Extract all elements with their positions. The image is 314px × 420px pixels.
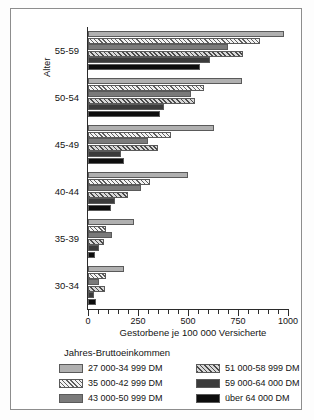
- y-axis-label-container: Alter: [41, 31, 55, 91]
- legend-item-label: über 64 000 DM: [225, 393, 290, 403]
- bar-40-44-series-1: [88, 179, 150, 185]
- chart-frame: Alter 02505007501000 55-5950-5445-4940-4…: [10, 8, 302, 410]
- bar-50-54-series-5: [88, 111, 160, 117]
- bar-35-39-series-2: [88, 232, 112, 238]
- x-tick-label-750: 750: [218, 316, 258, 326]
- bar-35-39-series-0: [88, 219, 134, 225]
- x-tick-300: [148, 310, 149, 314]
- bar-55-59-series-2: [88, 44, 228, 50]
- x-tick-550: [198, 310, 199, 314]
- bar-55-59-series-4: [88, 57, 210, 63]
- x-tick-label-1000: 1000: [268, 316, 308, 326]
- legend-item-label: 27 000-34 999 DM: [88, 363, 163, 373]
- bar-45-49-series-3: [88, 145, 158, 151]
- bar-50-54-series-0: [88, 78, 242, 84]
- bar-40-44-series-0: [88, 172, 188, 178]
- bar-55-59-series-5: [88, 64, 200, 70]
- y-tick-label-55-59: 55-59: [33, 45, 79, 56]
- legend-title: Jahres-Bruttoeinkommen: [64, 347, 303, 358]
- legend-item-label: 59 000-64 000 DM: [225, 378, 300, 388]
- bar-40-44-series-3: [88, 192, 128, 198]
- legend-swatch-icon: [196, 394, 220, 403]
- y-tick-label-35-39: 35-39: [33, 233, 79, 244]
- bar-45-49-series-0: [88, 125, 214, 131]
- x-tick-700: [228, 310, 229, 314]
- bar-30-34-series-0: [88, 266, 124, 272]
- x-tick-600: [208, 310, 209, 314]
- bar-40-44-series-5: [88, 205, 111, 211]
- bar-50-54-series-1: [88, 85, 204, 91]
- y-tick-label-45-49: 45-49: [33, 139, 79, 150]
- bar-30-34-series-2: [88, 279, 99, 285]
- legend-item-label: 43 000-50 999 DM: [88, 393, 163, 403]
- legend-column-left: 27 000-34 999 DM35 000-42 999 DM43 000-5…: [59, 361, 163, 406]
- plot-area: [88, 27, 288, 309]
- bar-45-49-series-1: [88, 132, 171, 138]
- x-tick-label-500: 500: [168, 316, 208, 326]
- x-tick-100: [108, 310, 109, 314]
- x-tick-450: [178, 310, 179, 314]
- bar-30-34-series-4: [88, 292, 94, 298]
- legend-swatch-icon: [59, 379, 83, 388]
- legend-columns: 27 000-34 999 DM35 000-42 999 DM43 000-5…: [59, 361, 303, 407]
- bar-50-54-series-2: [88, 91, 191, 97]
- bar-45-49-series-4: [88, 151, 121, 157]
- bar-55-59-series-3: [88, 51, 243, 57]
- y-tick-label-50-54: 50-54: [33, 92, 79, 103]
- x-tick-650: [218, 310, 219, 314]
- legend-item: 35 000-42 999 DM: [59, 376, 163, 390]
- x-tick-label-250: 250: [118, 316, 158, 326]
- legend-item: 43 000-50 999 DM: [59, 391, 163, 405]
- x-tick-850: [258, 310, 259, 314]
- legend-swatch-icon: [196, 364, 220, 373]
- x-tick-400: [168, 310, 169, 314]
- x-tick-label-0: 0: [68, 316, 108, 326]
- legend-item: über 64 000 DM: [196, 391, 300, 405]
- bar-35-39-series-4: [88, 245, 99, 251]
- legend-swatch-icon: [196, 379, 220, 388]
- bar-30-34-series-5: [88, 299, 96, 305]
- legend-item: 27 000-34 999 DM: [59, 361, 163, 375]
- x-tick-900: [268, 310, 269, 314]
- legend-swatch-icon: [59, 364, 83, 373]
- y-tick-label-40-44: 40-44: [33, 186, 79, 197]
- legend-item: 59 000-64 000 DM: [196, 376, 300, 390]
- bar-40-44-series-2: [88, 185, 141, 191]
- legend: Jahres-Bruttoeinkommen 27 000-34 999 DM3…: [59, 347, 303, 407]
- x-tick-200: [128, 310, 129, 314]
- bar-45-49-series-2: [88, 138, 148, 144]
- chart-page: Alter 02505007501000 55-5950-5445-4940-4…: [0, 0, 314, 420]
- bar-35-39-series-3: [88, 239, 104, 245]
- x-tick-950: [278, 310, 279, 314]
- y-axis-label: Alter: [41, 57, 52, 77]
- bar-30-34-series-1: [88, 273, 106, 279]
- legend-item-label: 35 000-42 999 DM: [88, 378, 163, 388]
- x-tick-800: [248, 310, 249, 314]
- x-tick-150: [118, 310, 119, 314]
- bar-50-54-series-3: [88, 98, 195, 104]
- x-tick-50: [98, 310, 99, 314]
- legend-swatch-icon: [59, 394, 83, 403]
- legend-item: 51 000-58 999 DM: [196, 361, 300, 375]
- bar-55-59-series-0: [88, 31, 284, 37]
- x-tick-350: [158, 310, 159, 314]
- bar-35-39-series-5: [88, 252, 95, 258]
- bar-40-44-series-4: [88, 198, 115, 204]
- bar-45-49-series-5: [88, 158, 124, 164]
- bar-50-54-series-4: [88, 104, 164, 110]
- x-axis-label: Gestorbene je 100 000 Versicherte: [88, 327, 298, 338]
- legend-column-right: 51 000-58 999 DM59 000-64 000 DMüber 64 …: [196, 361, 300, 406]
- bar-30-34-series-3: [88, 286, 105, 292]
- bar-55-59-series-1: [88, 38, 260, 44]
- y-tick-label-30-34: 30-34: [33, 280, 79, 291]
- legend-item-label: 51 000-58 999 DM: [225, 363, 300, 373]
- bar-35-39-series-1: [88, 226, 106, 232]
